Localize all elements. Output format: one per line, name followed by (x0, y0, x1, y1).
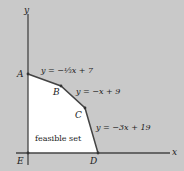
point-e-label: E (16, 156, 24, 166)
x-axis-label: x (172, 147, 177, 157)
point-d-label: D (89, 156, 97, 166)
point-a-label: A (16, 69, 24, 79)
line-bc-label: y = −x + 9 (75, 87, 120, 96)
region-label: feasible set (35, 134, 82, 143)
feasible-set-diagram: y x A B C D E y = −⅓x + 7 y = −x + 9 y =… (0, 0, 184, 171)
line-ab-label: y = −⅓x + 7 (40, 66, 94, 75)
point-b-label: B (52, 87, 60, 97)
line-cd-label: y = −3x + 19 (95, 123, 151, 132)
y-axis-label: y (23, 5, 30, 15)
point-c-label: C (75, 110, 82, 120)
